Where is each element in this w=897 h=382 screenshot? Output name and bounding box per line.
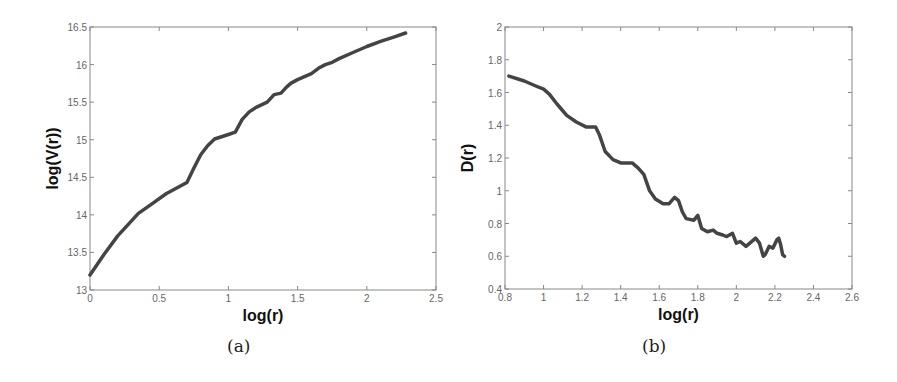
chart-a-plot: 00.511.522.51313.51414.51515.51616.5log(…	[0, 0, 450, 382]
x-tick-label: 1.5	[291, 293, 305, 304]
y-tick-label: 0.6	[488, 251, 502, 262]
y-tick-label: 0.8	[488, 219, 502, 230]
y-tick-label: 16	[76, 60, 88, 71]
y-tick-label: 13	[76, 285, 88, 296]
x-tick-label: 2.5	[429, 293, 443, 304]
x-tick-label: 2	[364, 293, 370, 304]
x-tick-label: 0	[87, 293, 93, 304]
y-tick-label: 2	[496, 22, 502, 33]
figure-a: 00.511.522.51313.51414.51515.51616.5log(…	[0, 0, 450, 382]
y-tick-label: 1.6	[488, 88, 502, 99]
caption-b: (b)	[642, 336, 666, 356]
y-tick-label: 14	[76, 210, 88, 221]
x-tick-label: 1.4	[614, 292, 628, 303]
x-tick-label: 1	[226, 293, 232, 304]
y-axis-label: log(V(r))	[44, 127, 61, 189]
x-tick-label: 2	[734, 292, 740, 303]
x-tick-label: 1.2	[575, 292, 589, 303]
y-tick-label: 0.4	[488, 284, 502, 295]
y-tick-label: 13.5	[68, 247, 88, 258]
y-tick-label: 15.5	[68, 97, 88, 108]
caption-a: (a)	[227, 336, 250, 356]
x-tick-label: 1	[541, 292, 547, 303]
y-tick-label: 1.8	[488, 55, 502, 66]
figure-b: 0.811.21.41.61.822.22.42.60.40.60.811.21…	[450, 0, 897, 382]
x-tick-label: 1.8	[691, 292, 705, 303]
y-tick-label: 1	[496, 186, 502, 197]
x-axis-label: log(r)	[658, 306, 699, 323]
x-tick-label: 1.6	[652, 292, 666, 303]
data-line	[90, 33, 406, 275]
x-tick-label: 2.4	[806, 292, 820, 303]
y-tick-label: 14.5	[68, 172, 88, 183]
plot-frame	[505, 27, 852, 289]
y-tick-label: 1.2	[488, 153, 502, 164]
x-tick-label: 0.5	[152, 293, 166, 304]
y-tick-label: 16.5	[68, 22, 88, 33]
y-tick-label: 1.4	[488, 120, 502, 131]
y-axis-label: D(r)	[459, 144, 476, 172]
x-tick-label: 2.6	[845, 292, 859, 303]
plot-frame	[90, 27, 436, 290]
x-axis-label: log(r)	[243, 307, 284, 324]
y-tick-label: 15	[76, 135, 88, 146]
x-tick-label: 2.2	[768, 292, 782, 303]
data-line	[509, 76, 785, 256]
chart-b-plot: 0.811.21.41.61.822.22.42.60.40.60.811.21…	[450, 0, 897, 382]
